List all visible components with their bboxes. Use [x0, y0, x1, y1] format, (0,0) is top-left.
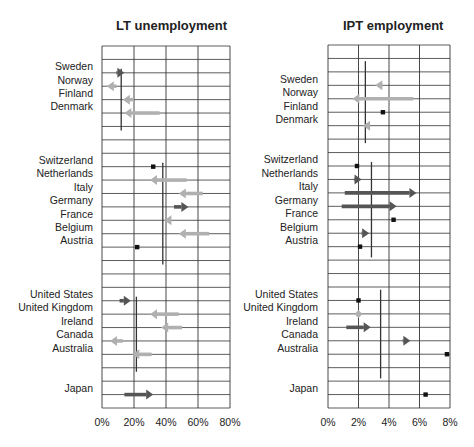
country-label: Sweden	[55, 60, 93, 72]
data-dot	[423, 392, 427, 396]
country-label: Sweden	[280, 73, 318, 85]
country-label: Canada	[56, 328, 93, 340]
chart-canvas: 0%20%40%60%80%SwedenNorwayFinlandDenmark…	[0, 0, 474, 447]
arrow-head	[123, 95, 130, 105]
data-dot	[356, 298, 360, 302]
country-label: Belgium	[55, 221, 93, 233]
arrow-head	[364, 322, 371, 332]
x-tick-label: 2%	[351, 416, 366, 428]
arrow-head	[179, 188, 186, 198]
arrow-head	[150, 175, 157, 185]
data-dot	[135, 245, 139, 249]
country-label: Japan	[289, 382, 318, 394]
country-label: Belgium	[280, 221, 318, 233]
country-label: Ireland	[61, 315, 93, 327]
arrow-head	[375, 80, 382, 90]
country-label: Ireland	[286, 315, 318, 327]
country-label: Switzerland	[264, 153, 318, 165]
arrow-head	[409, 188, 416, 198]
arrow-head	[150, 309, 157, 319]
country-label: Italy	[74, 181, 94, 193]
x-tick-label: 0%	[94, 416, 109, 428]
x-tick-label: 4%	[381, 416, 396, 428]
country-label: Japan	[64, 382, 93, 394]
x-tick-label: 20%	[123, 416, 144, 428]
country-label: Austria	[285, 234, 318, 246]
arrow-head	[164, 215, 171, 225]
country-label: Finland	[59, 87, 94, 99]
ipt-employment-chart: 0%2%4%6%8%SwedenNorwayFinlandDenmarkSwit…	[243, 45, 457, 428]
arrow-head	[362, 228, 369, 238]
arrow-head	[181, 202, 188, 212]
data-dot	[151, 164, 155, 168]
x-tick-label: 6%	[412, 416, 427, 428]
data-diamond	[355, 310, 363, 318]
arrow-head	[179, 229, 186, 239]
country-label: Norway	[282, 86, 318, 98]
x-tick-label: 8%	[442, 416, 457, 428]
arrow-head	[124, 296, 131, 306]
country-label: Denmark	[50, 100, 93, 112]
x-tick-label: 0%	[320, 416, 335, 428]
country-label: Switzerland	[39, 154, 93, 166]
country-label: United Kingdom	[243, 301, 318, 313]
country-label: Australia	[52, 342, 93, 354]
country-label: United States	[255, 288, 318, 300]
country-label: United Kingdom	[18, 301, 93, 313]
country-label: Canada	[281, 328, 318, 340]
arrow-head	[403, 336, 410, 346]
x-tick-label: 40%	[155, 416, 176, 428]
data-dot	[355, 164, 359, 168]
country-label: France	[60, 208, 93, 220]
country-label: Germany	[50, 194, 94, 206]
arrow-head	[161, 323, 168, 333]
arrow-head	[124, 108, 131, 118]
arrow-head	[146, 390, 153, 400]
data-dot	[358, 244, 362, 248]
arrow-head	[107, 81, 114, 91]
country-label: Austria	[60, 234, 93, 246]
data-dot	[381, 110, 385, 114]
country-label: Italy	[299, 180, 319, 192]
arrow-head	[363, 121, 370, 131]
arrow-head	[110, 336, 117, 346]
x-tick-label: 60%	[187, 416, 208, 428]
data-dot	[391, 218, 395, 222]
lt-unemployment-chart: 0%20%40%60%80%SwedenNorwayFinlandDenmark…	[18, 46, 240, 428]
arrow-head	[390, 201, 397, 211]
country-label: Netherlands	[261, 167, 318, 179]
country-label: Finland	[284, 100, 319, 112]
country-label: Germany	[275, 194, 319, 206]
data-dot	[445, 352, 449, 356]
country-label: Denmark	[275, 113, 318, 125]
arrow-head	[352, 94, 359, 104]
country-label: France	[285, 207, 318, 219]
country-label: Norway	[57, 74, 93, 86]
country-label: United States	[30, 288, 93, 300]
x-tick-label: 80%	[219, 416, 240, 428]
country-label: Australia	[277, 342, 318, 354]
country-label: Netherlands	[36, 167, 93, 179]
